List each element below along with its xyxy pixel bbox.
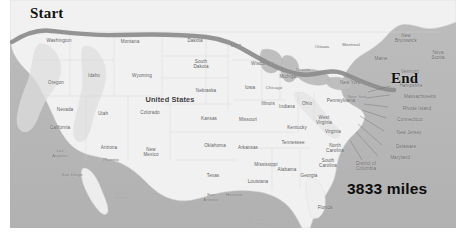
map-label: Nebraska	[196, 88, 216, 93]
map-label: Tennessee	[281, 140, 304, 145]
country-label: United States	[145, 96, 194, 104]
map-label: Montreal	[342, 43, 360, 48]
map-label: Alabama	[278, 167, 297, 172]
map-label: Colorado	[140, 110, 159, 115]
map-label: WestVirginia	[316, 115, 332, 125]
map-label: Oklahoma	[204, 143, 226, 148]
map-label: Houston	[226, 193, 243, 198]
map-label: Massachusetts	[404, 94, 436, 99]
map-label: Toronto	[295, 68, 310, 73]
end-annotation: End	[391, 70, 418, 87]
map-label: Rhode Island	[403, 106, 431, 111]
map-label: Wisconsin	[251, 61, 273, 66]
map-label: New Jersey	[397, 130, 422, 135]
map-label: Minn	[231, 43, 241, 48]
map-label: District ofColumbia	[356, 161, 376, 171]
map-label: San Diego	[62, 173, 83, 178]
distance-annotation: 3833 miles	[347, 180, 427, 198]
start-annotation: Start	[30, 5, 64, 22]
map-label: Georgia	[300, 173, 317, 178]
map-label: Nevada	[57, 107, 73, 112]
map-label: NovaScotia	[431, 50, 444, 60]
map-label: Oregon	[48, 80, 64, 85]
map-label: Iowa	[245, 85, 255, 90]
map-label: New York	[348, 95, 367, 100]
map-label: LosAngeles	[52, 149, 68, 159]
map-label: NorthCarolina	[326, 143, 344, 153]
map-label: Washington	[46, 38, 71, 43]
map-label: Gulf ofMexico	[255, 217, 269, 227]
map-label: Missouri	[239, 117, 257, 122]
map-label: Utah	[98, 111, 108, 116]
map-label: Mississippi	[254, 162, 277, 167]
map-label: Dakota	[187, 38, 202, 43]
map-label: Gulf ofCalifornia	[110, 191, 129, 201]
map-label: Illinois	[261, 101, 275, 106]
map-label: Idaho	[88, 73, 100, 78]
map-label: NewBrunswick	[395, 33, 417, 43]
map-label: Chicago	[266, 86, 282, 91]
map-label: NewMexico	[143, 147, 158, 157]
map-label: Delaware	[396, 144, 416, 149]
map-label: New York	[340, 80, 360, 85]
map-label: Michigan	[279, 74, 298, 79]
map-label: California	[50, 125, 70, 130]
map-label: Montana	[121, 39, 140, 44]
map-label: SouthDakota	[193, 59, 208, 69]
map-label: Virginia	[325, 129, 341, 134]
map-label: Indiana	[279, 104, 295, 109]
map-label: Wyoming	[132, 73, 152, 78]
map-label: Ottawa	[315, 45, 329, 50]
map-label: SanAntonio	[203, 193, 218, 203]
map-label: Arkansas	[238, 145, 258, 150]
map-label: Maryland	[390, 155, 410, 160]
map-label: Arizona	[101, 145, 117, 150]
map-label: Ohio	[302, 101, 312, 106]
map-label: Maine	[374, 56, 387, 61]
map-label: Louisiana	[248, 179, 269, 184]
map-label: Phoenix	[103, 158, 119, 163]
map-label: Florida	[318, 205, 333, 210]
route-map-figure: WashingtonOregonIdahoMontanaWyomingNevad…	[0, 0, 456, 241]
map-label: Connecticut	[397, 117, 422, 122]
map-label: Kentucky	[287, 125, 307, 130]
map-label: SouthCarolina	[319, 158, 337, 168]
map-label: Texas	[207, 173, 220, 178]
map-label: Kansas	[201, 116, 217, 121]
